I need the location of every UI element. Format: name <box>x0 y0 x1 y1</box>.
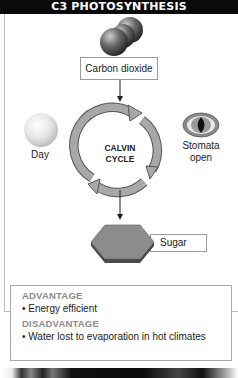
photo-strip <box>0 368 238 378</box>
co2-molecule-icon <box>90 12 150 62</box>
stomata-label-line2: open <box>176 152 226 164</box>
carbon-dioxide-label: Carbon dioxide <box>80 57 158 80</box>
disadvantage-heading: DISADVANTAGE <box>22 318 231 330</box>
disadvantage-item: • Water lost to evaporation in hot clima… <box>22 330 231 343</box>
sugar-label: Sugar <box>150 234 207 252</box>
advantage-item: • Energy efficient <box>22 302 231 315</box>
stomata-label-line1: Stomata <box>176 140 226 152</box>
calvin-label-line2: CYCLE <box>96 154 144 165</box>
advantage-heading: ADVANTAGE <box>22 290 231 302</box>
advantages-box: ADVANTAGE • Energy efficient DISADVANTAG… <box>10 285 232 361</box>
stomata-eye-icon <box>181 110 221 140</box>
stomata-open-label: Stomata open <box>176 140 226 164</box>
day-label: Day <box>22 149 58 160</box>
calvin-cycle-label: CALVIN CYCLE <box>96 143 144 165</box>
hexagon-sugar-icon <box>88 222 158 268</box>
calvin-label-line1: CALVIN <box>96 143 144 154</box>
arrow-down-icon <box>115 190 125 222</box>
sun-sphere-icon <box>21 110 61 150</box>
